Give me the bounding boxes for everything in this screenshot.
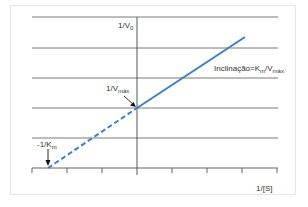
arrow-km-icon bbox=[46, 149, 51, 166]
vmax-label: 1/Vmáx bbox=[106, 84, 129, 94]
arrow-vmax-icon bbox=[124, 96, 136, 107]
x-axis bbox=[32, 168, 278, 173]
gridlines bbox=[32, 17, 278, 138]
x-axis-label: 1/[S] bbox=[256, 184, 272, 193]
lineweaver-burk-chart: 1/V0 1/Vmáx Inclinação=Km/Vmáx -1/Km 1/[… bbox=[0, 0, 308, 207]
km-label: -1/Km bbox=[37, 140, 57, 150]
slope-label: Inclinação=Km/Vmáx bbox=[214, 64, 284, 74]
y-axis-label: 1/V0 bbox=[118, 21, 134, 31]
